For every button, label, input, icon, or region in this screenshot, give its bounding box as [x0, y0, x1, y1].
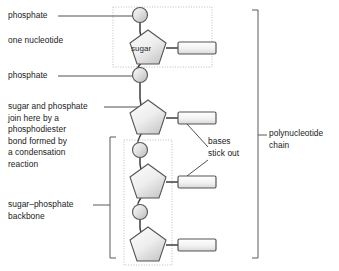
label-sugar-phosphate-backbone: sugar–phosphate backbone: [8, 199, 73, 222]
label-polynucleotide-chain: polynucleotide chain: [269, 128, 323, 151]
sugar-pentagon-3: [130, 164, 166, 198]
base-rectangle-4: [178, 239, 216, 251]
backbone-connector-3: [140, 82, 141, 106]
base-rectangle-2: [178, 112, 216, 124]
phosphate-circle-1: [133, 8, 148, 23]
sugar-pentagon-2: [130, 100, 166, 134]
label-one-nucleotide: one nucleotide: [8, 35, 63, 47]
label-phosphodiester-bond: sugar and phosphate join here by a phosp…: [8, 101, 88, 171]
leader-bases-lower: [187, 160, 208, 176]
backbone-bracket: [110, 137, 116, 258]
phosphate-circle-3: [133, 143, 148, 158]
backbone-connector-7: [140, 219, 141, 233]
backbone-connector-5: [140, 157, 141, 170]
label-phosphate-second: phosphate: [8, 70, 48, 82]
phosphate-circle-2: [133, 68, 148, 83]
base-rectangle-3: [178, 176, 216, 188]
sugar-pentagon-4: [130, 227, 166, 261]
base-rectangle-1: [178, 42, 216, 54]
label-phosphate-top: phosphate: [8, 10, 48, 22]
label-bases-stick-out: bases stick out: [208, 136, 239, 159]
polynucleotide-bracket: [252, 10, 258, 258]
figure-canvas: phosphate one nucleotide phosphate sugar…: [0, 0, 339, 271]
phosphate-circle-4: [133, 205, 148, 220]
label-sugar: sugar: [131, 43, 151, 55]
backbone-connector-1: [140, 22, 141, 36]
leader-bases-upper: [187, 124, 208, 147]
